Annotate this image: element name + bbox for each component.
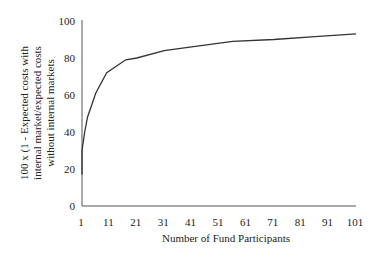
x-axis-label: Number of Fund Participants <box>162 232 290 244</box>
y-tick-label: 0 <box>70 200 76 212</box>
x-tick-label: 41 <box>185 216 196 228</box>
y-axis-label-line: internal market/expected costs <box>31 46 43 180</box>
x-tick-label: 71 <box>267 216 278 228</box>
x-tick-label: 11 <box>103 216 114 228</box>
y-tick-label: 60 <box>64 89 76 101</box>
x-tick-label: 61 <box>240 216 251 228</box>
x-axis-ticks: 1112131415161718191101 <box>78 216 363 228</box>
y-axis-ticks: 020406080100 <box>59 15 76 212</box>
y-axis-label-line: 100 x (1 - Expected costs with <box>18 46 31 180</box>
y-axis-label: 100 x (1 - Expected costs withinternal m… <box>18 46 56 180</box>
y-tick-label: 80 <box>64 52 76 64</box>
y-axis-label-line: without internal markets <box>44 59 56 167</box>
y-tick-label: 100 <box>59 15 76 27</box>
x-tick-label: 101 <box>347 216 364 228</box>
x-tick-label: 81 <box>295 216 306 228</box>
x-tick-label: 21 <box>130 216 141 228</box>
x-tick-label: 51 <box>213 216 224 228</box>
x-tick-label: 1 <box>78 216 84 228</box>
data-line <box>82 34 356 175</box>
x-tick-label: 31 <box>158 216 169 228</box>
line-chart: 100 x (1 - Expected costs withinternal m… <box>0 0 386 263</box>
x-tick-label: 91 <box>322 216 333 228</box>
y-tick-label: 20 <box>64 163 76 175</box>
y-tick-label: 40 <box>64 126 76 138</box>
